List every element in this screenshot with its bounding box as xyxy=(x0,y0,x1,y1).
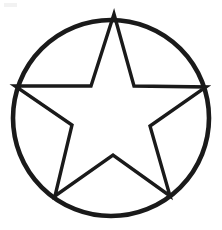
figure-background xyxy=(0,0,222,230)
figure-canvas: Star inscribed in circle Line drawing of… xyxy=(0,0,222,230)
star-in-circle-figure: Star inscribed in circle Line drawing of… xyxy=(0,0,222,230)
